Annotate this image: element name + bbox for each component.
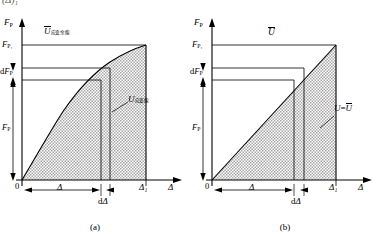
x-axis-label-b: Δ — [358, 183, 363, 192]
x-tick-delta1-b: Δ₁ — [329, 183, 337, 192]
dim-delta-arrow-right-a — [92, 187, 100, 192]
dim-fp-arrow-bottom-a — [10, 173, 15, 181]
x-axis-arrow-b — [363, 177, 372, 183]
region-label-complementary-a: U应变余能 — [44, 27, 70, 36]
y-tick-fp-b: FP — [192, 123, 200, 133]
dim-delta-arrow-right-b — [285, 187, 293, 192]
caption-b: (b) — [190, 222, 380, 232]
dim-delta-arrow-left-a — [24, 187, 32, 192]
panel-b: FP FP₁ dFP FP 0 Δ dΔ Δ₁ Δ U U=U (b) — [190, 0, 380, 236]
panel-a: (Δ)₁ — [0, 0, 190, 236]
region-label-complementary-b: U — [268, 28, 275, 38]
caption-a: (a) — [0, 222, 190, 232]
x-tick-ddelta-a: dΔ — [98, 197, 108, 206]
dim-dfp-arrow-down-a — [10, 77, 15, 85]
x-tick-delta-a: Δ — [57, 183, 62, 192]
region-label-equality-b: U=U — [334, 104, 352, 113]
y-tick-fp-a: FP — [2, 123, 10, 133]
region-label-strain-a: U应变能 — [128, 95, 149, 104]
y-axis-arrow-b — [209, 18, 215, 27]
y-tick-fp1-a: FP₁ — [2, 40, 12, 50]
x-tick-delta-b: Δ — [249, 183, 254, 192]
x-tick-ddelta-b: dΔ — [291, 197, 301, 206]
x-axis-label-a: Δ — [168, 183, 173, 192]
dim-delta-arrow-left-b — [214, 187, 222, 192]
y-tick-dfp-b: dFP — [190, 67, 203, 77]
top-clipped-text: (Δ)₁ — [2, 0, 18, 5]
dim-dfp-arrow-down-b — [200, 77, 205, 85]
y-axis-arrow-a — [19, 18, 25, 27]
x-axis-arrow-a — [173, 177, 182, 183]
y-axis-label-a: FP — [4, 18, 13, 28]
plot-b-svg — [190, 0, 380, 236]
y-axis-label-b: FP — [194, 18, 203, 28]
x-tick-delta1-a: Δ₁ — [139, 183, 147, 192]
y-tick-fp1-b: FP₁ — [192, 40, 202, 50]
strain-energy-region-a — [22, 45, 146, 180]
origin-label-b: 0 — [205, 182, 209, 191]
plot-a-svg — [0, 0, 190, 236]
y-tick-dfp-a: dFP — [0, 67, 13, 77]
dim-fp-arrow-bottom-b — [200, 173, 205, 181]
origin-label-a: 0 — [15, 182, 19, 191]
